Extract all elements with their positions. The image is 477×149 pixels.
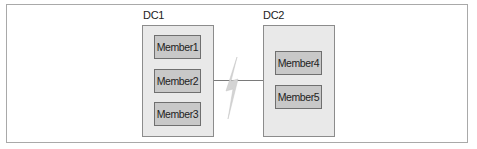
member3-node: Member3 xyxy=(154,102,201,126)
dc2-label: DC2 xyxy=(263,9,284,21)
member4-node: Member4 xyxy=(275,51,322,75)
dc2-box: Member4 Member5 xyxy=(263,25,335,137)
member1-node: Member1 xyxy=(154,35,201,59)
member5-node: Member5 xyxy=(275,85,322,109)
dc1-label: DC1 xyxy=(143,9,164,21)
dc1-box: Member1 Member2 Member3 xyxy=(142,25,214,137)
member2-node: Member2 xyxy=(154,69,201,93)
lightning-bolt-icon xyxy=(222,55,246,121)
